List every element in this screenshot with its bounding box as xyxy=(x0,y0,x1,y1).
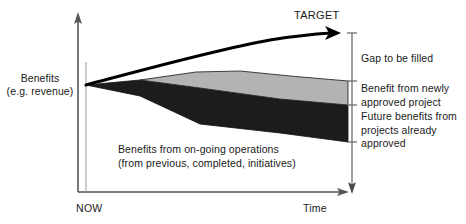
newly-approved-line1: Benefit from newly xyxy=(361,82,449,94)
future-benefits-label: Future benefits fromprojects alreadyappr… xyxy=(361,110,457,151)
x-axis-end-label: Time xyxy=(303,202,327,215)
ongoing-operations-line2: (from previous, completed, initiatives) xyxy=(118,157,296,169)
future-benefits-line1: Future benefits from xyxy=(361,110,457,122)
future-benefits-line3: approved xyxy=(361,137,406,149)
newly-approved-line2: approved project xyxy=(361,96,441,108)
y-axis-label: Benefits(e.g. revenue) xyxy=(4,72,76,98)
x-axis-start-label: NOW xyxy=(76,202,103,215)
diagram-canvas: Benefits(e.g. revenue) TARGET NOW Time B… xyxy=(0,0,466,224)
y-axis-label-line1: Benefits xyxy=(21,72,60,84)
gap-to-be-filled-label: Gap to be filled xyxy=(361,52,433,65)
target-label: TARGET xyxy=(294,9,340,22)
ongoing-operations-line1: Benefits from on-going operations xyxy=(118,143,279,155)
newly-approved-project-label: Benefit from newlyapproved project xyxy=(361,82,449,109)
future-benefits-line2: projects already xyxy=(361,124,437,136)
ongoing-operations-annotation: Benefits from on-going operations(from p… xyxy=(118,142,296,170)
y-axis-label-line2: (e.g. revenue) xyxy=(7,85,74,97)
